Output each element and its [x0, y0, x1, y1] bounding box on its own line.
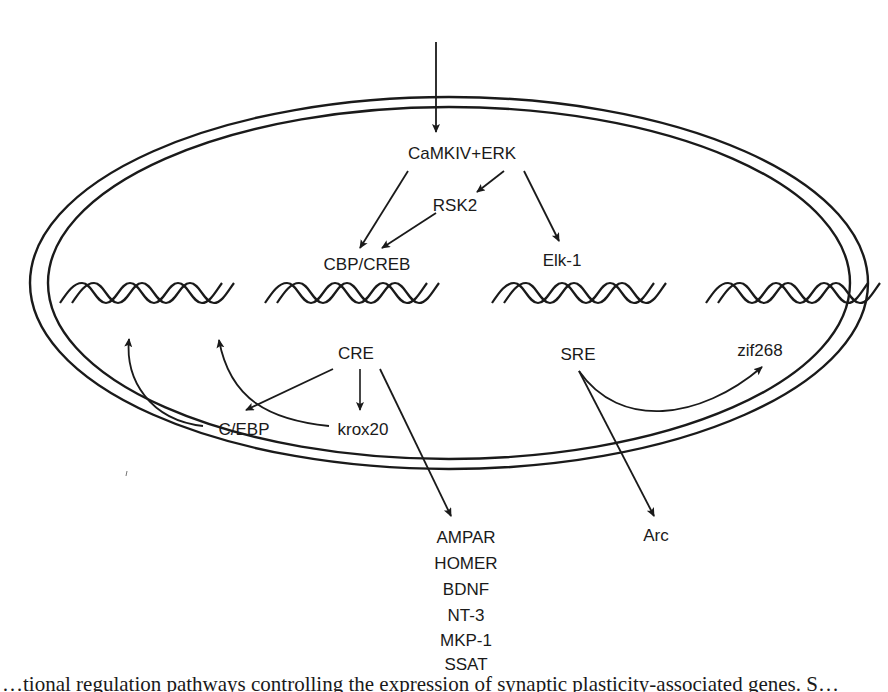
dna-helix-4 — [706, 283, 880, 303]
figure-caption: …tional regulation pathways controlling … — [0, 672, 888, 692]
node-sre: SRE — [561, 345, 596, 364]
arrow-cre-to-cebp — [246, 369, 333, 410]
arrow-erk-to-rsk2 — [477, 171, 504, 192]
node-cebp: C/EBP — [218, 420, 269, 439]
dna-helix-2 — [265, 283, 439, 303]
node-cbp-creb: CBP/CREB — [324, 255, 411, 274]
arrow-rsk2-to-cbp — [382, 213, 436, 248]
stray-mark — [126, 471, 127, 476]
node-cre: CRE — [338, 344, 374, 363]
arrow-sre-to-zif268 — [579, 367, 762, 411]
node-camkiv-erk: CaMKIV+ERK — [408, 144, 517, 163]
cre-target-nt3: NT-3 — [448, 606, 485, 625]
dna-helix-1 — [60, 283, 234, 303]
cre-target-bdnf: BDNF — [443, 580, 489, 599]
cre-target-homer: HOMER — [434, 554, 497, 573]
cre-target-ampar: AMPAR — [436, 528, 495, 547]
arrow-krox20-to-dna — [219, 340, 329, 426]
arrow-sre-to-arc — [579, 371, 654, 516]
arrow-cre-to-targets — [380, 369, 451, 516]
node-rsk2: RSK2 — [433, 196, 477, 215]
node-arc: Arc — [643, 526, 669, 545]
signaling-diagram: CaMKIV+ERK RSK2 CBP/CREB Elk-1 CRE SRE z… — [0, 0, 888, 692]
node-zif268: zif268 — [737, 341, 782, 360]
arrow-erk-to-elk1 — [524, 171, 559, 241]
node-krox20: krox20 — [337, 420, 388, 439]
cre-target-mkp1: MKP-1 — [440, 631, 492, 650]
node-elk1: Elk-1 — [543, 251, 582, 270]
dna-helix-3 — [492, 283, 666, 303]
arrow-cebp-to-dna — [129, 339, 203, 426]
